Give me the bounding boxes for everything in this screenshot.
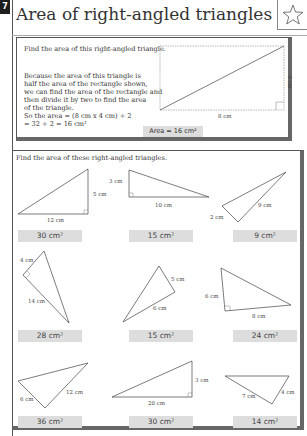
triangle-5: 5 cm6 cm	[123, 266, 185, 322]
triangle-9: 7 cm4 cm	[225, 376, 295, 404]
svg-text:3 cm: 3 cm	[195, 377, 209, 383]
svg-text:4 cm: 4 cm	[287, 75, 293, 89]
svg-text:3 cm: 3 cm	[109, 178, 123, 184]
triangle-3: 2 cm9 cm	[210, 172, 286, 222]
svg-text:12 cm: 12 cm	[66, 389, 84, 395]
answer-3: 9 cm²	[233, 230, 297, 242]
diagrams: 8 cm 4 cm 12 cm5 cm 3 cm10 cm 2 cm9 cm 4…	[0, 0, 307, 436]
example-rectangle-diagram: 8 cm 4 cm	[160, 46, 293, 119]
svg-text:5 cm: 5 cm	[93, 191, 107, 197]
answer-5: 15 cm²	[129, 330, 193, 342]
svg-text:12 cm: 12 cm	[47, 217, 65, 223]
svg-text:10 cm: 10 cm	[155, 202, 173, 208]
svg-text:20 cm: 20 cm	[148, 400, 166, 406]
svg-text:9 cm: 9 cm	[258, 202, 272, 208]
triangle-4: 4 cm14 cm	[20, 251, 69, 323]
answer-9: 14 cm²	[233, 416, 297, 428]
triangle-8: 3 cm20 cm	[112, 361, 209, 406]
svg-text:6 cm: 6 cm	[20, 396, 34, 402]
svg-text:8 cm: 8 cm	[252, 313, 266, 319]
answer-2: 15 cm²	[129, 230, 193, 242]
answer-8: 30 cm²	[129, 416, 193, 428]
svg-text:5 cm: 5 cm	[171, 276, 185, 282]
svg-text:2 cm: 2 cm	[210, 214, 224, 220]
triangle-6: 6 cm8 cm	[205, 268, 291, 319]
svg-text:8 cm: 8 cm	[218, 113, 232, 119]
answer-4: 28 cm²	[18, 330, 82, 342]
svg-text:4 cm: 4 cm	[281, 389, 295, 395]
triangle-2: 3 cm10 cm	[109, 170, 209, 208]
svg-text:6 cm: 6 cm	[205, 293, 219, 299]
answer-7: 36 cm²	[18, 416, 82, 428]
svg-text:14 cm: 14 cm	[28, 298, 46, 304]
triangle-1: 12 cm5 cm	[18, 169, 107, 223]
answer-6: 24 cm²	[233, 330, 297, 342]
svg-text:7 cm: 7 cm	[242, 393, 256, 399]
svg-text:4 cm: 4 cm	[20, 257, 34, 263]
answer-1: 30 cm²	[18, 230, 82, 242]
svg-text:6 cm: 6 cm	[153, 305, 167, 311]
triangle-7: 6 cm12 cm	[18, 363, 88, 408]
